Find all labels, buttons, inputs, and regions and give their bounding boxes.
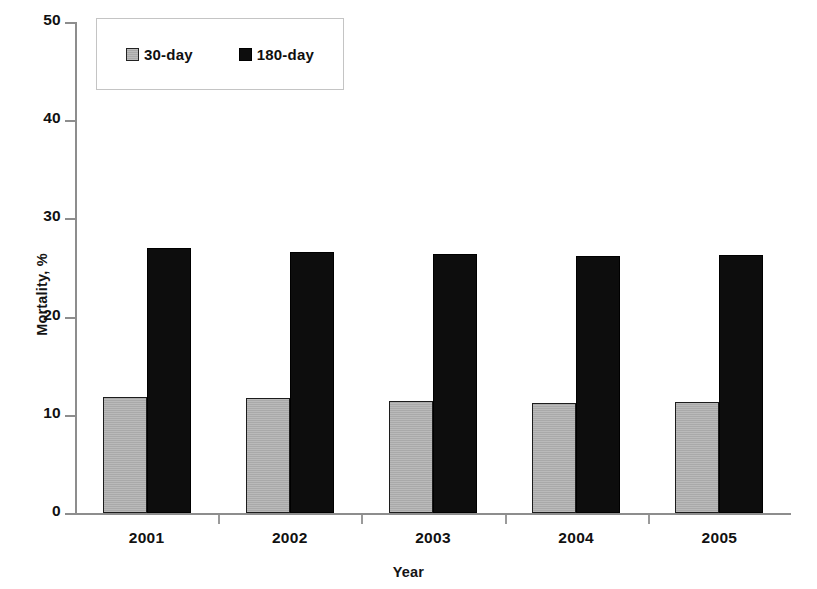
y-tick-mark	[65, 317, 75, 319]
bar-2002-180-day[interactable]	[290, 252, 334, 513]
legend-item-180-day[interactable]: 180-day	[239, 46, 314, 63]
y-tick-mark	[65, 513, 75, 515]
legend-swatch-30-day-icon	[126, 48, 139, 61]
y-tick-mark	[65, 218, 75, 220]
x-tick-label-2002: 2002	[218, 529, 361, 547]
x-tick-label-2004: 2004	[505, 529, 648, 547]
legend-label-30-day: 30-day	[144, 46, 193, 63]
bar-2001-30-day[interactable]	[103, 397, 147, 513]
bar-chart-figure: Mortality, % 01020304050 200120022003200…	[0, 0, 817, 589]
x-tick-separator	[218, 515, 220, 524]
x-tick-label-2005: 2005	[648, 529, 791, 547]
x-axis-title: Year	[0, 564, 817, 580]
y-tick-mark	[65, 120, 75, 122]
y-tick-label: 40	[43, 109, 61, 127]
x-axis-line	[75, 513, 791, 515]
legend-item-30-day[interactable]: 30-day	[126, 46, 193, 63]
bar-2004-30-day[interactable]	[532, 403, 576, 513]
chart-legend: 30-day 180-day	[96, 18, 344, 90]
bar-2005-180-day[interactable]	[719, 255, 763, 513]
plot-area	[75, 22, 791, 513]
x-tick-separator	[505, 515, 507, 524]
bar-2004-180-day[interactable]	[576, 256, 620, 513]
y-tick-label: 10	[43, 404, 61, 422]
y-tick-label: 0	[52, 502, 61, 520]
y-tick-label: 20	[43, 306, 61, 324]
y-axis-title: Mortality, %	[28, 0, 56, 589]
x-tick-separator	[648, 515, 650, 524]
y-tick-mark	[65, 22, 75, 24]
bar-2003-180-day[interactable]	[433, 254, 477, 513]
x-tick-separator	[361, 515, 363, 524]
bar-2005-30-day[interactable]	[675, 402, 719, 513]
legend-label-180-day: 180-day	[257, 46, 314, 63]
x-tick-label-2003: 2003	[361, 529, 504, 547]
y-tick-label: 30	[43, 207, 61, 225]
x-tick-label-2001: 2001	[75, 529, 218, 547]
legend-swatch-180-day-icon	[239, 48, 252, 61]
y-tick-mark	[65, 415, 75, 417]
bar-2002-30-day[interactable]	[246, 398, 290, 513]
bar-2001-180-day[interactable]	[147, 248, 191, 513]
y-tick-label: 50	[43, 11, 61, 29]
bar-2003-30-day[interactable]	[389, 401, 433, 513]
